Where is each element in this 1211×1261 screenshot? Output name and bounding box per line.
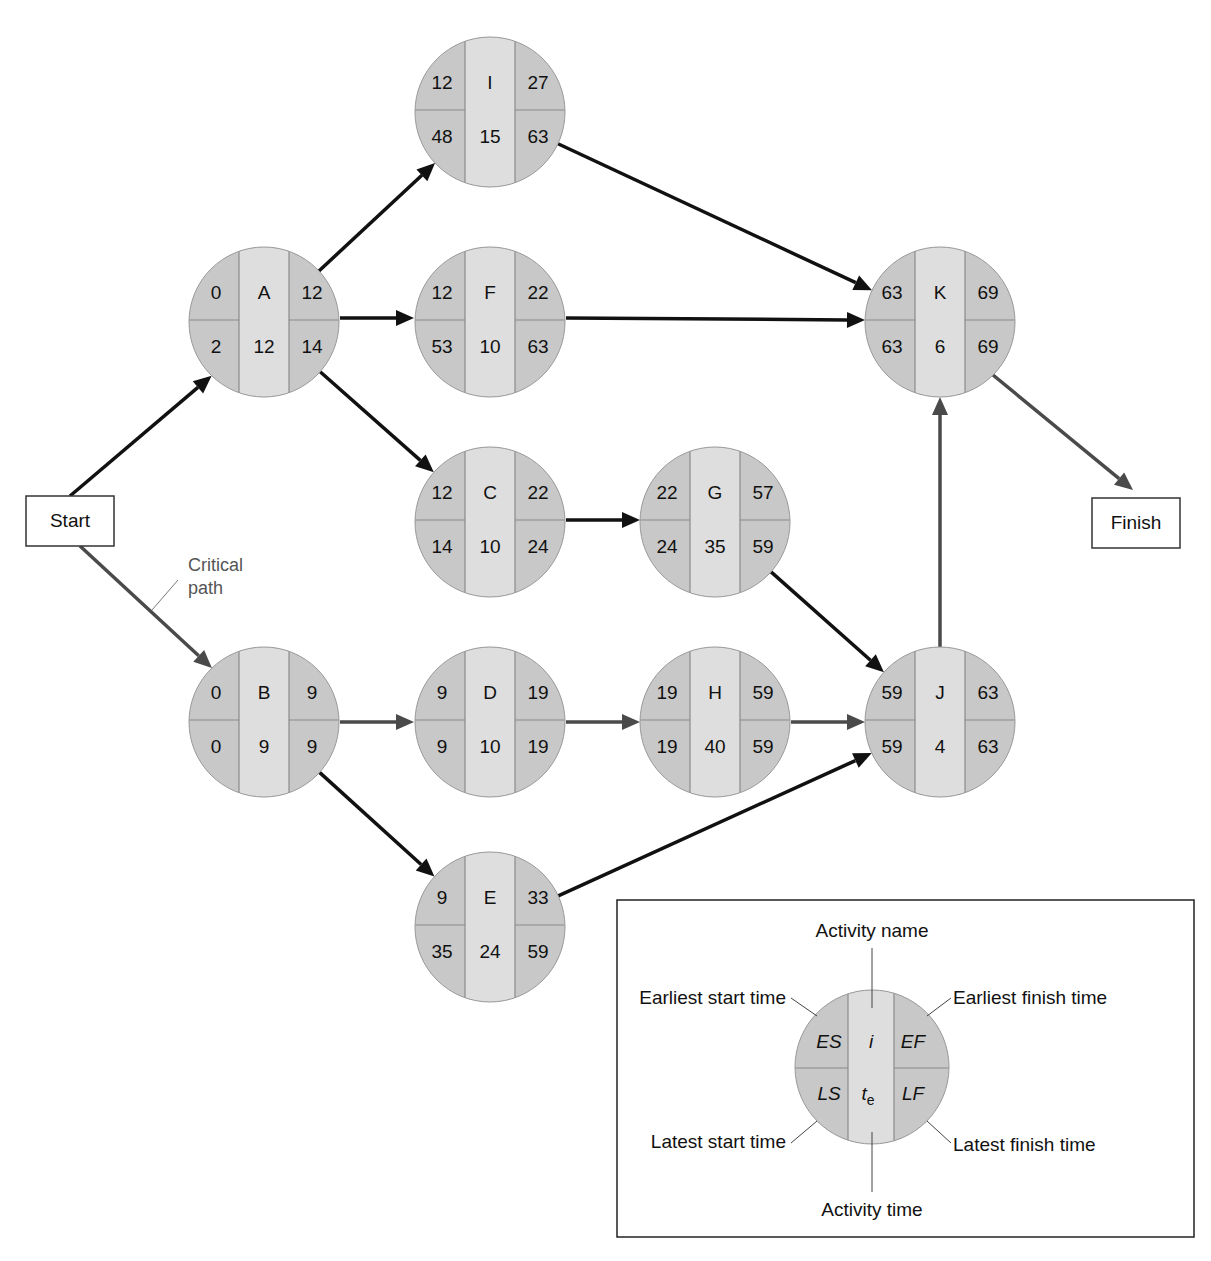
- node-g-ls: 24: [656, 536, 678, 557]
- edge-d-to-h: [566, 714, 640, 730]
- node-k-ls: 63: [881, 336, 902, 357]
- node-f-ef: 22: [527, 282, 548, 303]
- node-a-te: 12: [253, 336, 274, 357]
- node-i-name: I: [487, 72, 492, 93]
- node-k-te: 6: [935, 336, 946, 357]
- edge-a-to-i: [319, 163, 435, 271]
- legend-latest-start: Latest start time: [651, 1131, 786, 1152]
- node-f-lf: 63: [527, 336, 548, 357]
- node-i-ef: 27: [527, 72, 548, 93]
- legend-earliest-start: Earliest start time: [639, 987, 786, 1008]
- node-f-ls: 53: [431, 336, 452, 357]
- start-label: Start: [50, 510, 91, 531]
- node-i-ls: 48: [431, 126, 452, 147]
- node-h-name: H: [708, 682, 722, 703]
- arrowhead-icon: [396, 310, 414, 326]
- arrowhead-icon: [932, 397, 948, 415]
- node-c-ef: 22: [527, 482, 548, 503]
- node-a-name: A: [258, 282, 271, 303]
- node-c-name: C: [483, 482, 497, 503]
- legend-ef: EF: [901, 1031, 927, 1052]
- node-a-ls: 2: [211, 336, 222, 357]
- node-e-es: 9: [437, 887, 448, 908]
- edge-j-to-k: [932, 397, 948, 647]
- node-b-ef: 9: [307, 682, 318, 703]
- node-b-name: B: [258, 682, 271, 703]
- node-f-te: 10: [479, 336, 500, 357]
- legend-node: ES i EF LS te LF: [795, 990, 949, 1144]
- node-e-ef: 33: [527, 887, 548, 908]
- legend-lf: LF: [902, 1083, 926, 1104]
- node-j-es: 59: [881, 682, 902, 703]
- node-c-te: 10: [479, 536, 500, 557]
- edge-f-to-k: [566, 312, 865, 328]
- node-d-ls: 9: [437, 736, 448, 757]
- edge-a-to-f: [340, 310, 414, 326]
- edge-start-to-a: [70, 376, 212, 496]
- edge-i-to-k: [558, 144, 872, 291]
- edge-g-to-j: [771, 572, 884, 672]
- arrowhead-icon: [622, 714, 640, 730]
- start-box[interactable]: Start: [26, 496, 114, 546]
- activity-node-i[interactable]: 12I27481563: [415, 37, 565, 187]
- critical-path-label-line2: path: [188, 578, 223, 598]
- edge-a-to-c: [320, 372, 434, 473]
- arrowhead-icon: [396, 714, 414, 730]
- node-c-lf: 24: [527, 536, 549, 557]
- activity-node-f[interactable]: 12F22531063: [415, 247, 565, 397]
- node-k-ef: 69: [977, 282, 998, 303]
- node-j-lf: 63: [977, 736, 998, 757]
- activity-node-h[interactable]: 19H59194059: [640, 647, 790, 797]
- node-i-te: 15: [479, 126, 500, 147]
- node-d-es: 9: [437, 682, 448, 703]
- node-g-te: 35: [704, 536, 725, 557]
- activity-node-a[interactable]: 0A1221214: [189, 247, 339, 397]
- node-h-lf: 59: [752, 736, 773, 757]
- activity-node-c[interactable]: 12C22141024: [415, 447, 565, 597]
- critical-path-label-line1: Critical: [188, 555, 243, 575]
- legend-es: ES: [816, 1031, 842, 1052]
- node-j-name: J: [935, 682, 945, 703]
- node-a-ef: 12: [301, 282, 322, 303]
- node-b-te: 9: [259, 736, 270, 757]
- node-d-lf: 19: [527, 736, 548, 757]
- activity-node-k[interactable]: 63K6963669: [865, 247, 1015, 397]
- arrowhead-icon: [847, 714, 865, 730]
- node-e-name: E: [484, 887, 497, 908]
- edge-b-to-d: [340, 714, 414, 730]
- activity-node-e[interactable]: 9E33352459: [415, 852, 565, 1002]
- node-j-ls: 59: [881, 736, 902, 757]
- node-d-name: D: [483, 682, 497, 703]
- edge-k-to-finish: [993, 375, 1133, 490]
- legend-earliest-finish: Earliest finish time: [953, 987, 1107, 1008]
- node-j-te: 4: [935, 736, 946, 757]
- node-g-ef: 57: [752, 482, 773, 503]
- node-b-lf: 9: [307, 736, 318, 757]
- activity-node-b[interactable]: 0B9099: [189, 647, 339, 797]
- finish-label: Finish: [1111, 512, 1162, 533]
- activity-node-j[interactable]: 59J6359463: [865, 647, 1015, 797]
- node-c-es: 12: [431, 482, 452, 503]
- node-a-es: 0: [211, 282, 222, 303]
- legend-ls: LS: [817, 1083, 841, 1104]
- arrowhead-icon: [847, 312, 865, 328]
- network-diagram: 12I274815630A122121412F2253106363K696366…: [0, 0, 1211, 1261]
- activity-node-g[interactable]: 22G57243559: [640, 447, 790, 597]
- node-g-name: G: [708, 482, 723, 503]
- node-f-es: 12: [431, 282, 452, 303]
- node-h-te: 40: [704, 736, 725, 757]
- finish-box[interactable]: Finish: [1092, 498, 1180, 548]
- node-k-name: K: [934, 282, 947, 303]
- legend-latest-finish: Latest finish time: [953, 1134, 1096, 1155]
- node-i-lf: 63: [527, 126, 548, 147]
- node-g-lf: 59: [752, 536, 773, 557]
- node-g-es: 22: [656, 482, 677, 503]
- node-a-lf: 14: [301, 336, 323, 357]
- node-i-es: 12: [431, 72, 452, 93]
- node-e-te: 24: [479, 941, 501, 962]
- node-b-es: 0: [211, 682, 222, 703]
- legend-activity-time: Activity time: [821, 1199, 922, 1220]
- node-d-te: 10: [479, 736, 500, 757]
- legend-activity-name: Activity name: [816, 920, 929, 941]
- activity-node-d[interactable]: 9D1991019: [415, 647, 565, 797]
